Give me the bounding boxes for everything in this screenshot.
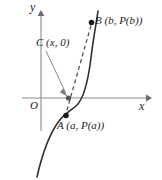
x-axis-label: x [139,100,144,112]
point-c-label: C (x, 0) [36,37,69,48]
y-axis-label: y [30,1,35,13]
point-a-marker [63,113,69,119]
figure-canvas: y x O B (b, P(b)) C (x, 0) A (a, P(a)) [0,0,162,180]
point-a-label: A (a, P(a)) [57,120,104,131]
graph-svg [0,0,162,180]
y-axis-arrowhead [38,10,45,16]
x-axis-arrowhead [146,95,152,102]
point-b-marker [89,20,95,26]
point-c-marker [66,95,71,100]
point-b-label: B (b, P(b)) [95,15,142,26]
c-label-pointer-line [46,51,66,93]
c-label-pointer-head [60,89,67,97]
origin-label: O [30,100,38,111]
